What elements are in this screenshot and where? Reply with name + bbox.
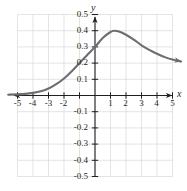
y-tick-label: -0.2 xyxy=(60,123,88,132)
x-tick-label: -4 xyxy=(24,99,41,108)
x-tick-label: 1 xyxy=(103,99,118,108)
y-tick-label: -0.5 xyxy=(60,172,88,181)
y-tick-label: -0.1 xyxy=(60,107,88,116)
y-tick-label: 0.3 xyxy=(64,42,88,51)
y-tick-label: 0.2 xyxy=(64,58,88,67)
x-tick-label: 5 xyxy=(165,99,180,108)
x-tick-label: 4 xyxy=(149,99,164,108)
y-tick-label: -0.4 xyxy=(60,156,88,165)
y-tick-label: 0.5 xyxy=(64,10,88,19)
y-tick-label: 0.1 xyxy=(64,75,88,84)
x-tick-label: -2 xyxy=(55,99,72,108)
y-axis-label: y xyxy=(91,3,95,13)
x-tick-label: 2 xyxy=(118,99,133,108)
x-tick-label: 3 xyxy=(134,99,149,108)
y-tick-label: 0.4 xyxy=(64,26,88,35)
chart-canvas xyxy=(0,0,187,191)
chart-figure: 0.5 0.4 0.3 0.2 0.1 -0.1 -0.2 -0.3 -0.4 … xyxy=(0,0,187,191)
x-axis-label: x xyxy=(177,89,181,99)
y-tick-label: -0.3 xyxy=(60,139,88,148)
